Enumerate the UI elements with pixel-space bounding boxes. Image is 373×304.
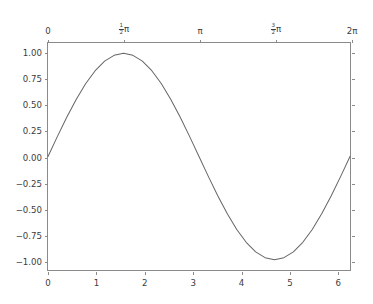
tick-mark-x-bottom — [242, 272, 243, 275]
tick-label-x-top: π — [197, 27, 202, 36]
tick-mark-x-bottom — [193, 272, 194, 275]
tick-mark-y-left — [45, 53, 48, 54]
tick-mark-y-left — [45, 262, 48, 263]
tick-mark-y-right — [352, 131, 355, 132]
tick-mark-y-left — [45, 79, 48, 80]
tick-label-y-left: −0.75 — [16, 231, 42, 240]
tick-mark-x-top — [352, 40, 353, 43]
tick-label-x-bottom: 1 — [94, 279, 99, 288]
tick-label-x-bottom: 2 — [142, 279, 147, 288]
tick-mark-y-right — [352, 53, 355, 54]
figure-canvas: 0123456012ππ32π2π1.000.750.500.250.00−0.… — [0, 0, 373, 304]
tick-mark-x-bottom — [96, 272, 97, 275]
tick-mark-x-bottom — [338, 272, 339, 275]
tick-mark-x-bottom — [290, 272, 291, 275]
tick-label-x-bottom: 3 — [190, 279, 195, 288]
tick-label-x-bottom: 0 — [45, 279, 50, 288]
tick-mark-x-top — [200, 40, 201, 43]
plot-axes: 0123456012ππ32π2π1.000.750.500.250.00−0.… — [47, 42, 351, 271]
tick-mark-y-left — [45, 131, 48, 132]
tick-mark-y-right — [352, 105, 355, 106]
tick-label-y-left: 0.00 — [23, 153, 42, 162]
tick-label-x-bottom: 4 — [239, 279, 244, 288]
tick-label-y-left: −0.50 — [16, 205, 42, 214]
tick-label-y-left: 0.50 — [23, 101, 42, 110]
tick-label-x-top: 32π — [271, 23, 281, 36]
tick-mark-y-left — [45, 210, 48, 211]
tick-mark-y-right — [352, 262, 355, 263]
tick-label-x-bottom: 5 — [287, 279, 292, 288]
tick-mark-y-right — [352, 158, 355, 159]
tick-label-y-left: 0.75 — [23, 75, 42, 84]
tick-label-x-bottom: 6 — [336, 279, 341, 288]
tick-mark-y-right — [352, 79, 355, 80]
tick-label-y-left: 0.25 — [23, 127, 42, 136]
tick-mark-x-bottom — [145, 272, 146, 275]
tick-mark-x-top — [124, 40, 125, 43]
tick-label-y-left: −0.25 — [16, 179, 42, 188]
tick-mark-y-left — [45, 236, 48, 237]
tick-mark-x-top — [276, 40, 277, 43]
tick-mark-y-right — [352, 236, 355, 237]
tick-label-y-left: 1.00 — [23, 49, 42, 58]
tick-label-x-top: 12π — [119, 23, 129, 36]
tick-mark-y-left — [45, 184, 48, 185]
tick-label-x-top: 0 — [45, 27, 50, 36]
tick-mark-y-right — [352, 210, 355, 211]
tick-mark-x-top — [48, 40, 49, 43]
tick-mark-x-bottom — [48, 272, 49, 275]
tick-mark-y-right — [352, 184, 355, 185]
tick-mark-y-left — [45, 158, 48, 159]
sine-curve-svg — [48, 43, 350, 270]
tick-mark-y-left — [45, 105, 48, 106]
tick-label-y-left: −1.00 — [16, 257, 42, 266]
sine-line — [48, 53, 350, 259]
tick-label-x-top: 2π — [347, 27, 358, 36]
